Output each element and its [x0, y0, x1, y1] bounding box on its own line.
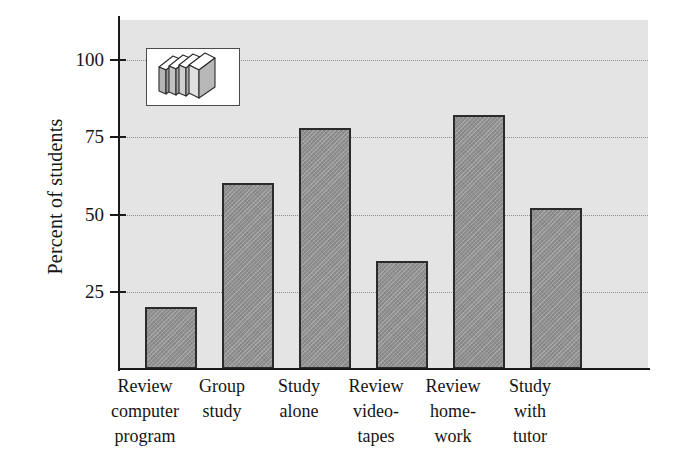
- x-label-study-with-tutor: Study with tutor: [482, 374, 578, 449]
- x-label-line: program: [97, 424, 193, 449]
- bar-review-videotapes: [376, 261, 428, 369]
- y-tick-mark-50: [110, 214, 126, 216]
- gridline-75: [120, 137, 648, 138]
- y-tick-label-50: 50: [44, 204, 104, 226]
- y-tick-mark-100: [110, 59, 126, 61]
- bar-review-computer-program: [145, 307, 197, 369]
- books-icon: [146, 48, 240, 106]
- x-label-line: Study: [482, 374, 578, 399]
- x-label-line: with: [482, 399, 578, 424]
- y-tick-mark-75: [110, 136, 126, 138]
- books-icon-graphic: [147, 49, 237, 103]
- bar-study-with-tutor: [530, 208, 582, 369]
- y-tick-label-75: 75: [44, 126, 104, 148]
- y-tick-mark-25: [110, 291, 126, 293]
- y-axis-tick-labels: 100 75 50 25: [38, 0, 104, 461]
- y-tick-label-100: 100: [44, 49, 104, 71]
- y-axis-line: [118, 16, 120, 371]
- bar-group-study: [222, 183, 274, 369]
- bar-chart-figure: Percent of students 100 75 50 25: [0, 0, 674, 461]
- bar-review-homework: [453, 115, 505, 369]
- bar-study-alone: [299, 128, 351, 369]
- y-tick-label-25: 25: [44, 281, 104, 303]
- x-axis-line: [118, 368, 650, 370]
- x-label-line: tutor: [482, 424, 578, 449]
